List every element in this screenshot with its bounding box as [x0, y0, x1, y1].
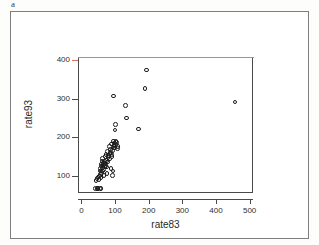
scatter-point: [110, 173, 115, 178]
y-tick-label: 300: [46, 95, 70, 103]
scatter-point: [136, 127, 141, 132]
scatter-point: [99, 186, 104, 191]
x-tick-label: 400: [201, 206, 231, 215]
scatter-point: [233, 100, 238, 105]
y-tick-label: 400: [46, 56, 70, 64]
x-tick-label: 0: [66, 206, 96, 215]
x-axis-line: [78, 199, 253, 200]
scatter-point: [116, 144, 121, 149]
scatter-point: [123, 103, 128, 108]
scatter-points-layer: [78, 58, 253, 193]
panel-letter-label: a: [11, 0, 15, 10]
scatter-point: [143, 86, 148, 91]
scatter-point: [144, 68, 149, 73]
scatter-point: [111, 94, 116, 99]
y-tick-label: 200: [46, 133, 70, 141]
scatter-point: [113, 128, 118, 133]
y-axis-title: rate93: [23, 84, 35, 144]
x-tick-label: 100: [100, 206, 130, 215]
scatter-point: [110, 154, 115, 159]
figure-panel: a 100200300400 0100200300400500 rate83 r…: [0, 0, 319, 245]
scatter-point: [113, 122, 118, 127]
x-tick-label: 300: [167, 206, 197, 215]
scatter-point: [104, 165, 109, 170]
x-axis-title: rate83: [78, 219, 253, 231]
y-tick-label: 100: [46, 172, 70, 180]
x-tick-label: 500: [235, 206, 265, 215]
scatter-point: [124, 116, 129, 121]
scatter-point: [102, 173, 107, 178]
x-tick-label: 200: [134, 206, 164, 215]
